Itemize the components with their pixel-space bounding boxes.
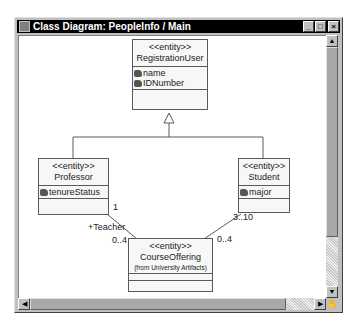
class-professor[interactable]: <<entity>> Professor tenureStatus bbox=[38, 158, 109, 215]
stereotype: <<entity>> bbox=[39, 161, 108, 172]
vertical-scroll-thumb[interactable] bbox=[326, 47, 338, 237]
role-teacher: +Teacher bbox=[88, 222, 125, 232]
scroll-left-button[interactable]: ◀ bbox=[18, 298, 30, 310]
attribute-compartment: tenureStatus bbox=[39, 186, 108, 199]
maximize-button[interactable]: □ bbox=[315, 21, 326, 32]
multiplicity-course-professor: 0..4 bbox=[112, 235, 127, 245]
operation-compartment bbox=[39, 199, 108, 205]
horizontal-scrollbar[interactable]: ◀ ▶ bbox=[18, 298, 326, 310]
stereotype: <<entity>> bbox=[133, 42, 207, 53]
close-button[interactable]: × bbox=[328, 21, 339, 32]
attribute-row[interactable]: major bbox=[240, 187, 289, 197]
operation-compartment bbox=[239, 199, 289, 205]
vertical-scrollbar[interactable]: ▲ ▼ bbox=[326, 35, 338, 298]
stereotype: <<entity>> bbox=[239, 161, 289, 172]
horizontal-scroll-track[interactable] bbox=[286, 298, 314, 310]
class-name: RegistrationUser bbox=[133, 53, 207, 66]
operation-compartment bbox=[133, 90, 207, 96]
diagram-icon bbox=[19, 21, 30, 32]
attribute-row[interactable]: tenureStatus bbox=[40, 187, 108, 197]
pan-hand-icon[interactable]: ✋ bbox=[326, 298, 338, 310]
horizontal-scroll-thumb[interactable] bbox=[30, 298, 286, 310]
multiplicity-student: 3..10 bbox=[233, 212, 253, 222]
class-name: Student bbox=[239, 172, 289, 185]
attribute-compartment: name IDNumber bbox=[133, 67, 207, 90]
operation-compartment bbox=[129, 280, 212, 288]
minimize-button[interactable]: _ bbox=[303, 21, 314, 32]
stereotype: <<entity>> bbox=[129, 241, 212, 252]
window-title: Class Diagram: PeopleInfo / Main bbox=[33, 20, 191, 33]
class-name: CourseOffering bbox=[129, 252, 212, 263]
attribute-icon bbox=[134, 80, 142, 87]
scroll-right-button[interactable]: ▶ bbox=[314, 298, 326, 310]
class-registration-user[interactable]: <<entity>> RegistrationUser name IDNumbe… bbox=[132, 39, 208, 110]
class-course-offering[interactable]: <<entity>> CourseOffering (from Universi… bbox=[128, 238, 213, 292]
scroll-up-button[interactable]: ▲ bbox=[326, 35, 338, 47]
diagram-canvas[interactable]: <<entity>> RegistrationUser name IDNumbe… bbox=[18, 35, 326, 298]
attribute-icon bbox=[240, 189, 248, 196]
vertical-scroll-track[interactable] bbox=[326, 237, 338, 286]
class-student[interactable]: <<entity>> Student major bbox=[238, 158, 290, 213]
attribute-icon bbox=[134, 70, 142, 77]
class-header: <<entity>> CourseOffering (from Universi… bbox=[129, 239, 212, 274]
attribute-compartment: major bbox=[239, 186, 289, 199]
class-name: Professor bbox=[39, 172, 108, 185]
scroll-down-button[interactable]: ▼ bbox=[326, 286, 338, 298]
package-origin: (from University Artifacts) bbox=[129, 263, 212, 273]
class-header: <<entity>> Professor bbox=[39, 159, 108, 186]
attribute-row[interactable]: name bbox=[134, 68, 207, 78]
title-bar[interactable]: Class Diagram: PeopleInfo / Main _ □ × bbox=[17, 20, 340, 33]
class-header: <<entity>> Student bbox=[239, 159, 289, 186]
attribute-row[interactable]: IDNumber bbox=[134, 78, 207, 88]
multiplicity-course-student: 0..4 bbox=[217, 234, 232, 244]
class-diagram-window: Class Diagram: PeopleInfo / Main _ □ × <… bbox=[14, 17, 343, 313]
multiplicity-professor: 1 bbox=[113, 202, 118, 212]
class-header: <<entity>> RegistrationUser bbox=[133, 40, 207, 67]
attribute-icon bbox=[40, 189, 48, 196]
